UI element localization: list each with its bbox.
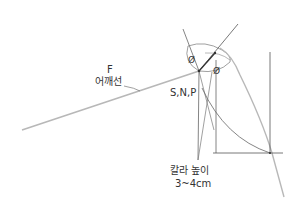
label-angle-2: Ø: [213, 65, 220, 77]
snp-vertical: [198, 71, 199, 160]
neckline-curve: [220, 48, 284, 197]
collar-draft-diagram: [0, 0, 305, 217]
label-shoulder-line: 어깨선: [95, 76, 122, 88]
label-snp: S,N,P: [170, 87, 196, 99]
label-f: F: [107, 64, 113, 76]
shoulder-label-leader: [124, 86, 140, 91]
label-angle-1: Ø: [188, 54, 195, 66]
snp-point: [198, 70, 201, 73]
label-collar-height: 칼라 높이: [170, 165, 209, 177]
intersection-point: [269, 152, 271, 154]
upper-point: [214, 52, 216, 54]
cross-line-2: [198, 72, 212, 160]
cross-line-1: [199, 71, 214, 130]
label-collar-height-value: 3~4cm: [175, 178, 211, 190]
